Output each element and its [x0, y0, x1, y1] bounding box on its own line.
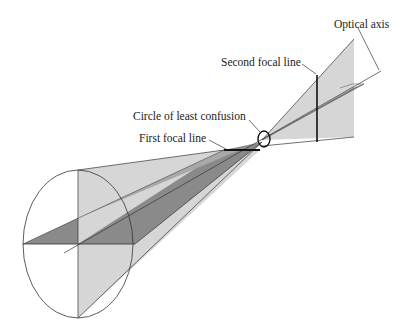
optical-axis-line: [64, 71, 381, 253]
leader-first-focal-line: [209, 140, 226, 149]
leader-optical-axis: [358, 28, 379, 70]
label-optical-axis: Optical axis: [334, 19, 389, 31]
label-first-focal-line: First focal line: [139, 133, 206, 145]
leader-circle-of-least-confusion: [249, 120, 260, 132]
label-circle-of-least-confusion: Circle of least confusion: [133, 111, 246, 123]
diagram-canvas: [0, 0, 415, 332]
astigmatism-diagram: Optical axis Second focal line Circle of…: [0, 0, 415, 332]
label-second-focal-line: Second focal line: [221, 57, 301, 69]
leader-second-focal-line: [302, 64, 316, 74]
